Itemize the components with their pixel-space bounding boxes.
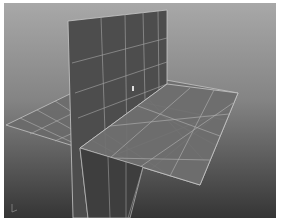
3d-viewport[interactable] — [4, 3, 276, 218]
cursor-icon — [132, 86, 134, 91]
